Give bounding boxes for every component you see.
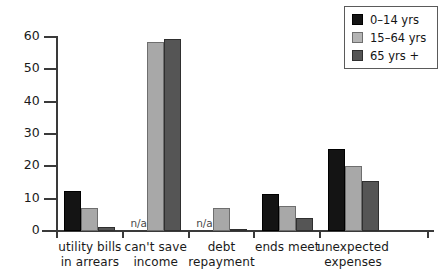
y-axis-tick [44, 36, 57, 38]
y-axis-tick-label-wrap: 60 [12, 30, 40, 43]
legend-item[interactable]: 65 yrs + [352, 48, 431, 63]
x-axis-category-label-line: expenses [306, 255, 400, 270]
bar[interactable] [164, 39, 181, 231]
x-axis-tick [253, 231, 255, 238]
y-axis-tick [44, 101, 57, 103]
legend-item[interactable]: 15–64 yrs [352, 30, 431, 45]
y-axis-tick-label: 30 [16, 127, 40, 140]
y-axis-tick-label-wrap: 0 [12, 224, 40, 237]
legend-item-label: 65 yrs + [370, 50, 419, 62]
legend-swatch-icon [352, 32, 363, 43]
x-axis-category-label-line: repayment [175, 255, 269, 270]
bar[interactable] [296, 218, 313, 231]
bar[interactable] [230, 229, 247, 231]
bar-group: n/a [189, 37, 255, 231]
bar[interactable] [262, 194, 279, 232]
x-axis-tick [427, 231, 429, 238]
y-axis-tick-label-wrap: 50 [12, 62, 40, 75]
legend-swatch-icon [352, 14, 363, 25]
legend: 0–14 yrs 15–64 yrs 65 yrs + [344, 6, 438, 69]
y-axis-tick-label: 10 [16, 192, 40, 205]
y-axis-tick-label-wrap: 10 [12, 192, 40, 205]
x-axis-tick [122, 231, 124, 238]
bar-group: n/a [123, 37, 189, 231]
y-axis-tick-label-wrap: 20 [12, 159, 40, 172]
legend-item-label: 0–14 yrs [370, 14, 419, 26]
plot-area: n/an/a [57, 37, 386, 231]
bar[interactable] [98, 227, 115, 231]
bar-chart: 0102030405060 n/an/a utility billsin arr… [0, 0, 444, 279]
y-axis-tick [44, 165, 57, 167]
bar[interactable] [345, 166, 362, 231]
legend-item[interactable]: 0–14 yrs [352, 12, 431, 27]
y-axis-tick-label: 50 [16, 62, 40, 75]
bar[interactable] [81, 208, 98, 231]
bar-group [57, 37, 123, 231]
y-axis-tick-label-wrap: 40 [12, 95, 40, 108]
x-axis-tick [56, 231, 58, 238]
bar[interactable] [213, 208, 230, 231]
bar[interactable] [328, 149, 345, 231]
y-axis-tick-label: 20 [16, 159, 40, 172]
y-axis-tick-label-wrap: 30 [12, 127, 40, 140]
y-axis-tick [44, 68, 57, 70]
x-axis-category-label: unexpectedexpenses [306, 240, 400, 269]
legend-swatch-icon [352, 50, 363, 61]
bar[interactable] [64, 191, 81, 231]
y-axis-tick-label: 60 [16, 30, 40, 43]
y-axis-tick-label: 0 [16, 224, 40, 237]
y-axis-tick-label: 40 [16, 95, 40, 108]
x-axis-tick [319, 231, 321, 238]
bar[interactable] [147, 42, 164, 231]
y-axis-tick [44, 198, 57, 200]
y-axis-tick [44, 133, 57, 135]
bar-group [254, 37, 320, 231]
legend-item-label: 15–64 yrs [370, 32, 426, 44]
x-axis-category-label-line: unexpected [306, 240, 400, 255]
x-axis-tick [188, 231, 190, 238]
bar[interactable] [362, 181, 379, 231]
bar[interactable] [279, 206, 296, 231]
